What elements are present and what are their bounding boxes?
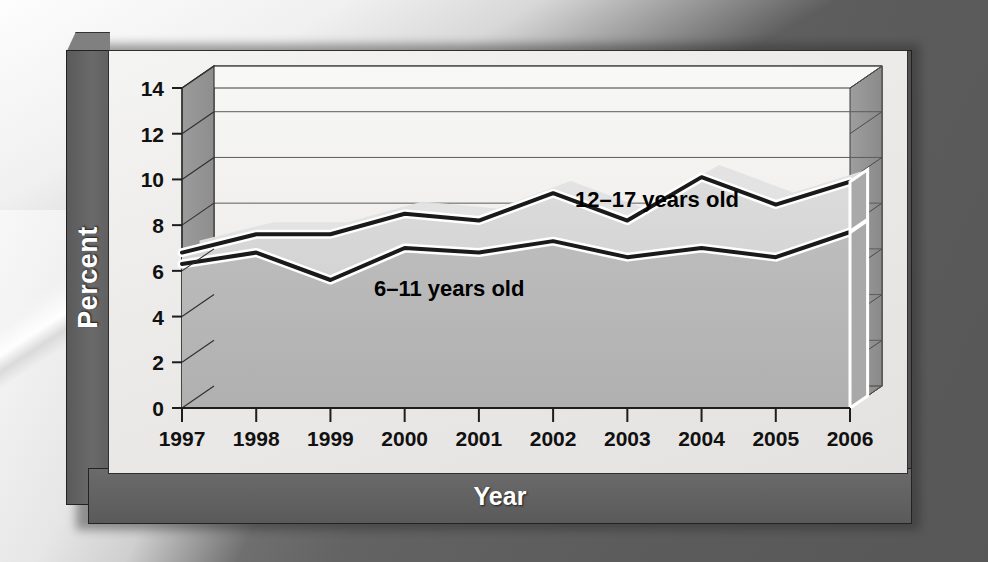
- x-tick-label: 1999: [307, 427, 354, 450]
- area-chart-svg: 02468101214 1997199819992000200120022003…: [108, 50, 908, 474]
- x-tick-label: 2003: [604, 427, 651, 450]
- annotation-6-11-years-old: 6–11 years old: [374, 276, 524, 301]
- y-tick-label: 10: [141, 168, 164, 191]
- y-tick-label: 14: [141, 77, 165, 100]
- y-axis-tick-labels: 02468101214: [141, 77, 165, 420]
- y-axis-title: Percent: [73, 226, 104, 329]
- x-tick-label: 2005: [752, 427, 799, 450]
- y-axis-title-strip: Percent: [66, 50, 110, 505]
- annotation-12-17-years-old: 12–17 years old: [575, 187, 739, 212]
- x-tick-label: 2001: [456, 427, 503, 450]
- x-tick-label: 2006: [827, 427, 874, 450]
- x-tick-label: 1998: [233, 427, 280, 450]
- y-tick-label: 2: [152, 351, 164, 374]
- x-tick-label: 2002: [530, 427, 577, 450]
- chart-plot-panel: 02468101214 1997199819992000200120022003…: [108, 50, 908, 474]
- y-tick-label: 4: [152, 306, 164, 329]
- x-tick-label: 2004: [678, 427, 725, 450]
- x-axis-tick-labels: 1997199819992000200120022003200420052006: [159, 427, 874, 450]
- y-tick-label: 8: [152, 214, 164, 237]
- x-axis-title: Year: [88, 468, 912, 524]
- y-tick-label: 0: [152, 397, 164, 420]
- y-tick-label: 6: [152, 260, 164, 283]
- y-tick-label: 12: [141, 123, 164, 146]
- top-bevel-face: [182, 66, 882, 88]
- x-tick-label: 2000: [381, 427, 428, 450]
- x-tick-label: 1997: [159, 427, 206, 450]
- area-end-cap-3d: [850, 170, 868, 408]
